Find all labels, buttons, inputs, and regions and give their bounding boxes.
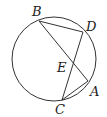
geometry-figure: B D E A C	[0, 0, 107, 117]
segment-bd	[39, 21, 83, 32]
label-b: B	[31, 4, 42, 19]
label-a: A	[89, 84, 99, 99]
label-e: E	[56, 60, 67, 75]
segment-ca	[62, 81, 88, 100]
circle	[12, 17, 96, 101]
label-c: C	[55, 102, 65, 117]
label-d: D	[85, 19, 97, 34]
